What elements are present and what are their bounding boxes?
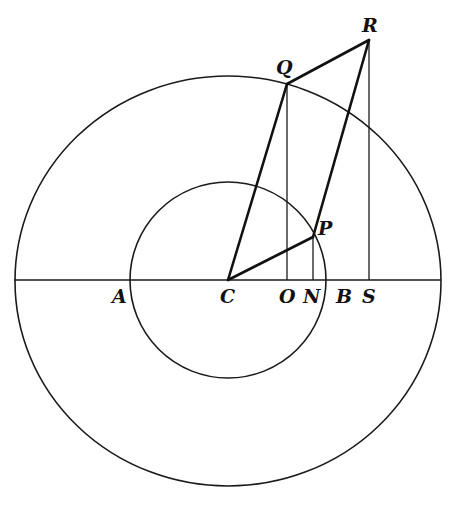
label-point-q: Q <box>276 56 293 78</box>
label-point-s: S <box>362 285 376 307</box>
construction-lines <box>228 40 369 280</box>
label-point-o: O <box>279 285 296 307</box>
diagram-canvas: RQPACONBS <box>0 0 459 511</box>
geometry-figure: RQPACONBS <box>0 0 459 511</box>
label-point-p: P <box>317 217 333 239</box>
segment-rp <box>313 40 369 237</box>
label-point-b: B <box>335 285 352 307</box>
segment-cp <box>228 237 313 280</box>
label-point-n: N <box>302 285 321 307</box>
label-point-r: R <box>361 14 378 36</box>
segment-qr <box>287 40 369 84</box>
label-point-c: C <box>220 285 235 307</box>
label-point-a: A <box>110 285 127 307</box>
